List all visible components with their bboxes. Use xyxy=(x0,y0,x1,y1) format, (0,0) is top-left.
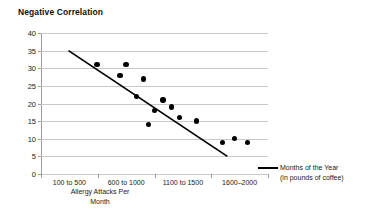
y-tick-label: 20 xyxy=(28,99,36,108)
x-tick-mark xyxy=(211,174,212,178)
x-axis-title-line2: Month xyxy=(41,197,159,207)
legend-entry: Months of the Year (in pounds of coffee) xyxy=(280,163,344,182)
x-tick-mark xyxy=(155,174,156,178)
x-tick-label: 1600–2000 xyxy=(222,179,257,186)
trend-line-segment xyxy=(68,51,227,157)
data-point xyxy=(160,97,165,102)
x-tick-label: 100 to 500 xyxy=(53,179,86,186)
y-tick-label: 5 xyxy=(32,152,36,161)
legend-line-swatch xyxy=(258,167,278,169)
legend-entry-label: Months of the Year xyxy=(280,164,338,171)
data-point xyxy=(141,76,146,81)
data-point xyxy=(194,118,199,123)
y-tick-label: 15 xyxy=(28,117,36,126)
y-tick-label: 0 xyxy=(32,170,36,179)
legend-entry-sublabel: (in pounds of coffee) xyxy=(280,173,344,183)
x-tick-label: 1100 to 1500 xyxy=(163,179,203,186)
x-tick-label: 600 to 1000 xyxy=(108,179,145,186)
data-point xyxy=(169,104,174,109)
legend: Months of the Year (in pounds of coffee) xyxy=(258,163,344,182)
x-axis-title-line1: Allergy Attacks Per xyxy=(41,187,159,197)
y-tick-label: 40 xyxy=(28,29,36,38)
chart-container: Negative Correlation 4035302520151050 10… xyxy=(0,0,375,217)
y-tick-label: 30 xyxy=(28,64,36,73)
data-point xyxy=(117,73,122,78)
y-tick-label: 10 xyxy=(28,134,36,143)
y-tick-label: 25 xyxy=(28,81,36,90)
y-tick-label: 35 xyxy=(28,46,36,55)
plot-area: 4035302520151050 100 to 500600 to 100011… xyxy=(41,33,268,174)
data-point xyxy=(123,62,128,67)
x-axis-title: Allergy Attacks Per Month xyxy=(41,187,159,206)
trend-line xyxy=(41,33,268,174)
x-tick-mark xyxy=(41,174,42,178)
x-tick-mark xyxy=(98,174,99,178)
chart-title: Negative Correlation xyxy=(18,7,103,17)
